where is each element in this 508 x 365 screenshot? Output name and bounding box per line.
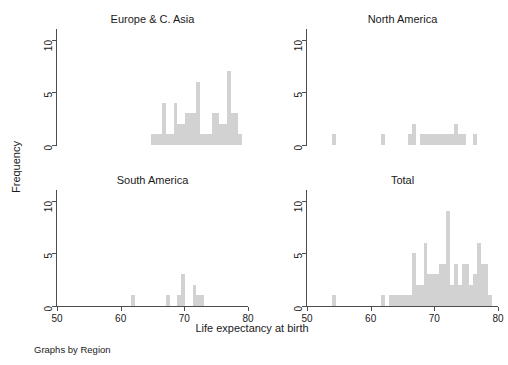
y-axis-line [56,190,57,307]
x-axis-line [306,306,498,307]
plot-area [307,190,498,306]
y-axis-line [306,29,307,146]
x-axis-tick-label: 50 [37,313,77,324]
x-axis-tick [498,307,499,311]
panel-title: Total [307,172,498,189]
x-axis-baseline [306,145,307,146]
x-axis-tick [307,307,308,311]
x-axis-tick [121,307,122,311]
y-axis-tick-label: 0 [42,145,56,185]
histogram-bar [131,295,135,306]
y-axis-tick-label: 10 [42,201,56,241]
plot-area [57,190,248,306]
y-axis-tick-label: 5 [292,92,306,132]
y-axis-tick-label: 0 [292,306,306,346]
x-axis-baseline [56,145,57,146]
histogram-bar [181,274,185,306]
x-axis-tick [434,307,435,311]
histogram-bar [462,134,466,145]
panel-europe-c-asia: Europe & C. Asia [57,11,248,145]
x-axis-tick-label: 60 [351,313,391,324]
histogram-bar [200,295,204,306]
panel-south-america: South America [57,172,248,306]
panel-total: Total [307,172,498,306]
y-axis-tick-label: 5 [292,253,306,293]
x-axis-tick-label: 80 [228,313,268,324]
x-axis-tick-label: 70 [414,313,454,324]
y-axis-line [56,29,57,146]
y-axis-title: Frequency [10,117,22,217]
histogram-bar [238,134,242,145]
x-axis-tick [184,307,185,311]
x-axis-tick-label: 70 [164,313,204,324]
x-axis-tick-label: 60 [101,313,141,324]
y-axis-tick-label: 0 [42,306,56,346]
histogram-bar [332,134,336,145]
x-axis-tick [371,307,372,311]
histogram-bar [332,295,336,306]
y-axis-tick-label: 10 [42,40,56,80]
y-axis-tick-label: 5 [42,253,56,293]
histogram-bar [381,295,385,306]
plot-area [307,29,498,145]
panel-title: Europe & C. Asia [57,11,248,28]
y-axis-line [306,190,307,307]
histogram-bar [381,134,385,145]
histogram-bar [412,124,416,145]
histogram-bar [488,295,492,306]
histogram-bar [166,295,170,306]
y-axis-tick-label: 5 [42,92,56,132]
y-axis-tick-label: 10 [292,201,306,241]
plot-area [57,29,248,145]
x-axis-line [56,306,248,307]
x-axis-tick [57,307,58,311]
x-axis-tick-label: 50 [287,313,327,324]
histogram-bar [473,134,477,145]
y-axis-tick-label: 10 [292,40,306,80]
panel-north-america: North America [307,11,498,145]
x-axis-tick [248,307,249,311]
panel-title: North America [307,11,498,28]
panel-title: South America [57,172,248,189]
y-axis-tick-label: 0 [292,145,306,185]
x-axis-tick-label: 80 [478,313,508,324]
